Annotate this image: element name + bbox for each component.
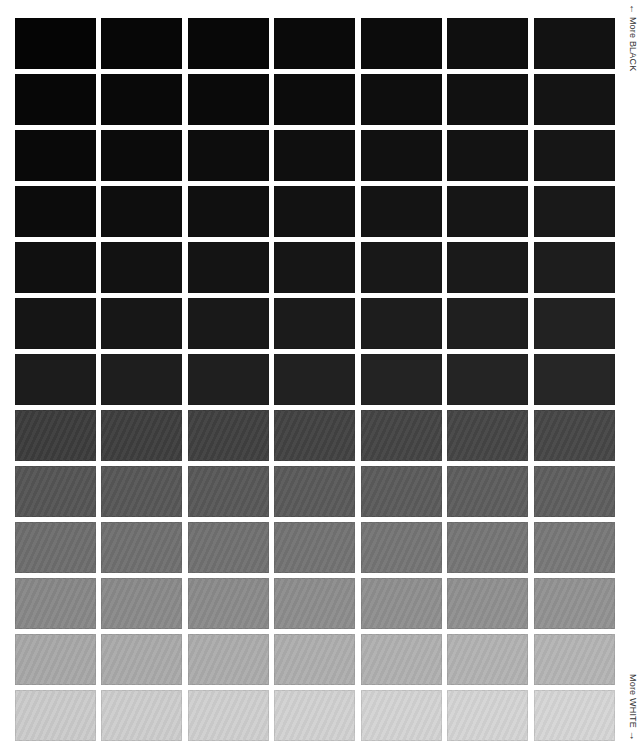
- gray-swatch: [15, 578, 96, 629]
- gray-swatch: [274, 298, 355, 349]
- more-black-label: ← More BLACK: [625, 4, 639, 71]
- gray-swatch: [534, 410, 615, 461]
- more-white-label: More WHITE →: [625, 674, 639, 741]
- gray-swatch: [101, 186, 182, 237]
- gray-swatch: [534, 74, 615, 125]
- gray-swatch: [534, 186, 615, 237]
- gray-swatch: [447, 354, 528, 405]
- gray-swatch: [534, 634, 615, 685]
- gray-swatch: [15, 186, 96, 237]
- gray-swatch: [447, 242, 528, 293]
- gray-swatch: [188, 690, 269, 741]
- gray-swatch: [274, 18, 355, 69]
- gray-swatch: [101, 130, 182, 181]
- gray-swatch: [274, 634, 355, 685]
- gray-swatch: [361, 522, 442, 573]
- gray-swatch: [534, 354, 615, 405]
- gray-swatch: [274, 74, 355, 125]
- arrow-up-icon: ←: [628, 4, 639, 14]
- gray-swatch: [361, 18, 442, 69]
- gray-swatch: [188, 298, 269, 349]
- gray-swatch: [534, 466, 615, 517]
- gray-swatch: [447, 522, 528, 573]
- gray-swatch: [188, 18, 269, 69]
- gray-swatch: [274, 186, 355, 237]
- gray-swatch: [534, 690, 615, 741]
- gray-swatch: [188, 74, 269, 125]
- gray-swatch: [188, 634, 269, 685]
- gray-swatch: [15, 634, 96, 685]
- gray-swatch: [447, 74, 528, 125]
- gray-swatch: [274, 578, 355, 629]
- gray-swatch: [274, 522, 355, 573]
- gray-swatch: [274, 690, 355, 741]
- gray-swatch: [447, 18, 528, 69]
- gray-swatch: [101, 242, 182, 293]
- gray-swatch: [534, 298, 615, 349]
- gray-swatch: [101, 522, 182, 573]
- gray-swatch: [361, 690, 442, 741]
- gray-swatch: [188, 410, 269, 461]
- gray-swatch: [447, 578, 528, 629]
- gray-swatch: [188, 522, 269, 573]
- gray-swatch: [15, 242, 96, 293]
- gray-swatch: [274, 242, 355, 293]
- gray-swatch: [534, 522, 615, 573]
- gray-swatch: [361, 186, 442, 237]
- gray-swatch: [361, 634, 442, 685]
- gray-swatch: [274, 130, 355, 181]
- gray-swatch: [101, 354, 182, 405]
- gray-swatch: [15, 130, 96, 181]
- gray-swatch: [101, 634, 182, 685]
- gray-swatch: [101, 298, 182, 349]
- gray-swatch: [361, 242, 442, 293]
- gray-swatch: [101, 74, 182, 125]
- gray-swatch: [534, 130, 615, 181]
- gray-swatch: [447, 634, 528, 685]
- gray-swatch: [188, 186, 269, 237]
- gray-swatch: [361, 354, 442, 405]
- gray-swatch: [101, 690, 182, 741]
- gray-swatch: [101, 466, 182, 517]
- arrow-down-icon: →: [628, 731, 639, 741]
- gray-swatch: [447, 186, 528, 237]
- gray-swatch: [15, 298, 96, 349]
- gray-swatch: [447, 130, 528, 181]
- gray-swatch: [188, 130, 269, 181]
- gray-swatch: [101, 18, 182, 69]
- gray-swatch: [361, 466, 442, 517]
- gray-swatch: [188, 578, 269, 629]
- gray-swatch: [447, 410, 528, 461]
- gray-swatch: [361, 410, 442, 461]
- gray-swatch: [361, 578, 442, 629]
- gray-swatch: [15, 522, 96, 573]
- gray-swatch: [274, 466, 355, 517]
- more-white-text: More WHITE: [628, 674, 638, 728]
- gray-swatch: [361, 130, 442, 181]
- gray-swatch: [447, 298, 528, 349]
- gray-swatch: [274, 410, 355, 461]
- gray-swatch: [15, 74, 96, 125]
- gray-swatch: [15, 410, 96, 461]
- gray-swatch: [274, 354, 355, 405]
- gray-swatch: [361, 298, 442, 349]
- gray-swatch: [101, 578, 182, 629]
- gray-swatch: [361, 74, 442, 125]
- gray-swatch: [15, 690, 96, 741]
- gray-swatch: [188, 242, 269, 293]
- gray-swatch: [15, 466, 96, 517]
- more-black-text: More BLACK: [628, 17, 638, 72]
- gray-swatch: [101, 410, 182, 461]
- gray-swatch: [188, 466, 269, 517]
- gray-swatch: [447, 466, 528, 517]
- gray-swatch: [534, 578, 615, 629]
- gray-swatch: [15, 354, 96, 405]
- gray-swatch: [534, 242, 615, 293]
- gray-swatch: [534, 18, 615, 69]
- gray-swatch: [15, 18, 96, 69]
- gray-swatch: [447, 690, 528, 741]
- gray-swatch: [188, 354, 269, 405]
